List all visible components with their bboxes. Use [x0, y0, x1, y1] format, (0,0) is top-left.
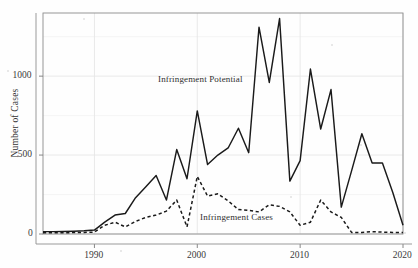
y-tick-label: 0: [28, 228, 33, 238]
y-axis-ticks: [39, 76, 43, 234]
scan-speck: [15, 97, 17, 99]
chart-figure: Number of Cases 05001000 199020002010202…: [0, 0, 418, 268]
x-tick-label: 1990: [84, 250, 103, 260]
annotation-infringement-cases: Infringement Cases: [200, 212, 273, 222]
scan-speck: [7, 70, 9, 72]
annotation-infringement-potential: Infringement Potential: [158, 74, 243, 84]
scan-speck: [404, 232, 406, 234]
x-tick-label: 2020: [393, 250, 412, 260]
scan-speck: [83, 18, 85, 20]
y-tick-label: 1000: [13, 70, 32, 80]
x-axis-ticks: [94, 244, 403, 248]
scan-speck: [360, 144, 362, 146]
line-chart-plot: [0, 0, 418, 268]
scan-speck: [120, 250, 122, 252]
scan-speck: [331, 44, 333, 46]
x-tick-label: 2010: [290, 250, 309, 260]
y-tick-label: 500: [18, 149, 32, 159]
x-tick-label: 2000: [187, 250, 206, 260]
scan-speck: [290, 196, 292, 198]
plot-background: [43, 13, 403, 234]
